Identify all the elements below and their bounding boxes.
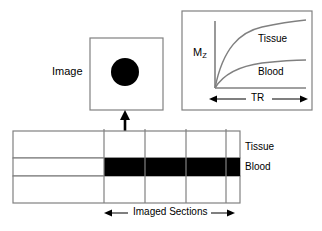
mz-subscript: Z	[202, 51, 207, 60]
chart-label-tissue: Tissue	[258, 34, 287, 44]
chart-x-axis-label: TR	[251, 93, 264, 103]
chart-y-axis-label: MZ	[193, 47, 207, 58]
slab-row-tissue-top	[13, 131, 240, 158]
imaged-sections-label: Imaged Sections	[133, 207, 208, 217]
saturated-blood-band	[104, 158, 240, 176]
slab-row-tissue-bottom	[13, 176, 240, 203]
slab-label-tissue: Tissue	[245, 142, 274, 152]
image-panel-label: Image	[52, 66, 83, 77]
projection-arrow-icon	[120, 110, 130, 132]
vessel-circle-icon	[111, 58, 139, 86]
slab-label-blood: Blood	[245, 162, 271, 172]
chart-label-blood: Blood	[258, 67, 284, 77]
mz-main: M	[193, 46, 202, 58]
mri-inflow-figure: Image MZ Tissue Blood TR Tissue Blood Im…	[0, 0, 322, 231]
